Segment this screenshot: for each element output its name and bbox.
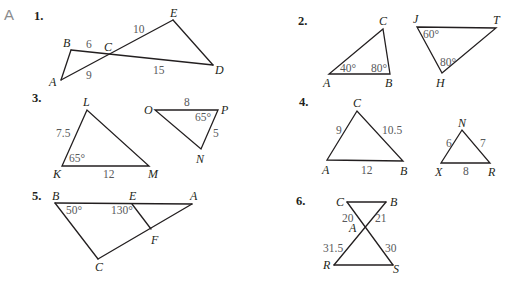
vertex-E: E [128,189,137,203]
vertex-J: J [413,12,419,26]
measure-CD: 15 [153,64,165,76]
vertex-S: S [393,262,399,276]
vertex-A: A [189,189,198,203]
problem-number: 3. [32,91,41,105]
problem-1: 1. A B C E D 6 10 9 15 [34,6,224,89]
vertex-B: B [385,76,393,90]
measure-KM: 12 [103,168,115,180]
vertex-P: P [220,103,229,117]
measure-AB: 12 [361,164,373,176]
segment-EF [132,204,151,229]
angle-K: 65° [69,152,86,164]
measure-NR: 7 [480,137,486,149]
vertex-D: D [214,63,224,77]
problem-number: 1. [34,9,43,23]
section-label: A [4,6,14,23]
measure-KL: 7.5 [56,127,71,139]
vertex-R: R [487,165,496,179]
triangle-CAB [327,111,403,161]
problem-number: 2. [298,14,307,28]
vertex-X: X [434,165,443,179]
angle-H: 80° [440,56,457,68]
measure-XR: 8 [463,165,469,177]
measure-CB: 10.5 [382,124,402,136]
vertex-F: F [150,233,159,247]
measure-AB: 21 [375,212,387,224]
problem-2: 2. A B C J T H 40° 80° 60° 80° [298,12,501,90]
vertex-B: B [390,195,398,209]
problem-number: 4. [299,95,308,109]
vertex-E: E [169,6,178,20]
angle-A: 40° [340,62,357,74]
vertex-C: C [353,96,362,110]
measure-XN: 6 [446,137,452,149]
vertex-A: A [48,75,57,89]
vertex-L: L [82,95,90,109]
measure-RA: 31.5 [323,242,343,254]
problem-6: 6. C B A R S 20 21 31.5 30 [296,194,399,276]
measure-AS: 30 [385,242,397,254]
vertex-C: C [95,260,104,274]
vertex-K: K [52,167,62,181]
problem-5: 5. B E A F C 50° 130° [32,189,198,274]
vertex-C: C [336,195,345,209]
measure-AC: 9 [86,69,92,81]
angle-J: 60° [423,28,440,40]
angle-P: 65° [195,111,212,123]
vertex-B: B [63,36,71,50]
similar-triangles-worksheet: A 1. A B C E D 6 10 9 15 2. A B C J T H … [0,0,509,284]
vertex-A: A [321,163,330,177]
vertex-R: R [322,258,331,272]
problem-number: 6. [296,194,305,208]
measure-CE: 10 [133,23,145,35]
vertex-H: H [435,76,446,90]
measure-CA: 20 [342,212,354,224]
vertex-B: B [52,189,60,203]
vertex-C: C [379,14,388,28]
problem-number: 5. [32,189,41,203]
angle-B: 80° [371,62,388,74]
angle-B: 50° [66,204,83,216]
vertex-T: T [493,13,501,27]
problem-4: 4. C A B N X R 9 10.5 12 6 7 8 [299,95,496,179]
vertex-C: C [104,40,113,54]
angle-E: 130° [111,204,133,216]
vertex-N: N [195,152,205,166]
measure-AC: 9 [336,124,342,136]
measure-BC: 6 [86,38,92,50]
measure-PN: 5 [213,127,219,139]
vertex-O: O [144,103,153,117]
vertex-B: B [400,164,408,178]
vertex-A: A [322,76,331,90]
problem-3: 3. L K M O P N 7.5 12 65° 8 5 65° [32,91,229,181]
segment-ED [173,20,213,65]
vertex-N: N [457,116,467,130]
vertex-M: M [147,167,159,181]
measure-OP: 8 [184,96,190,108]
